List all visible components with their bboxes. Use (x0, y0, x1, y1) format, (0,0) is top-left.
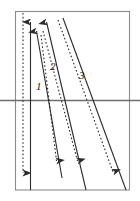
curve-label-2: 2 (50, 61, 56, 72)
trajectory-2-solid (47, 22, 87, 190)
trajectory-3-dotted (58, 20, 113, 172)
curve-label-3: 3 (79, 70, 85, 81)
trajectory-3-solid (63, 18, 126, 190)
diagram-canvas: 1 2 3 (0, 0, 140, 201)
curve-label-1: 1 (36, 81, 42, 92)
diagram-svg (0, 0, 140, 201)
